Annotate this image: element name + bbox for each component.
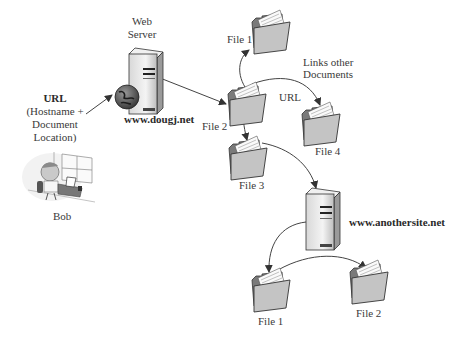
arrow-server-to-file2 (160, 78, 226, 104)
another-server-icon (306, 188, 340, 250)
anothersite-host: www.anothersite.net (349, 216, 445, 229)
file3-label: File 3 (239, 179, 264, 192)
diagram-canvas (0, 0, 466, 337)
url-note-line1: (Hostname + (10, 105, 100, 118)
folder-icon-file2 (228, 82, 266, 126)
file2-label: File 2 (202, 120, 227, 133)
web-server-title-line2: Server (117, 28, 167, 41)
url-note-line2: Document (10, 118, 100, 131)
web-server-title-line1: Web (117, 15, 167, 28)
arrow-file1-to-file2 (278, 256, 366, 270)
user-at-computer-icon (22, 152, 95, 202)
arrow-file3-to-anothersite (262, 143, 316, 188)
links-note: Links other Documents (303, 56, 353, 80)
file1-label: File 1 (227, 33, 252, 46)
url-note-title: URL (10, 92, 100, 105)
folder-icon-file1 (252, 10, 290, 54)
url-link-label: URL (279, 91, 301, 104)
arrow-file2-to-file1 (240, 50, 249, 90)
folder-icon-file3 (229, 136, 267, 180)
url-note: URL (Hostname + Document Location) (10, 92, 100, 144)
links-note-line2: Documents (303, 68, 353, 80)
web-server-title: Web Server (117, 15, 167, 41)
folder-icon-site2-file1 (252, 268, 290, 312)
folder-icon-site2-file2 (350, 260, 388, 304)
file4-label: File 4 (315, 145, 340, 158)
site2-file2-label: File 2 (356, 307, 381, 320)
url-note-line3: Location) (10, 131, 100, 144)
links-note-line1: Links other (303, 56, 353, 68)
site2-file1-label: File 1 (258, 315, 283, 328)
user-name: Bob (53, 210, 71, 223)
web-server-host: www.dougj.net (124, 113, 194, 126)
globe-icon (115, 85, 139, 109)
arrow-anothersite-to-file1 (269, 222, 306, 272)
folder-icon-file4 (302, 102, 340, 146)
